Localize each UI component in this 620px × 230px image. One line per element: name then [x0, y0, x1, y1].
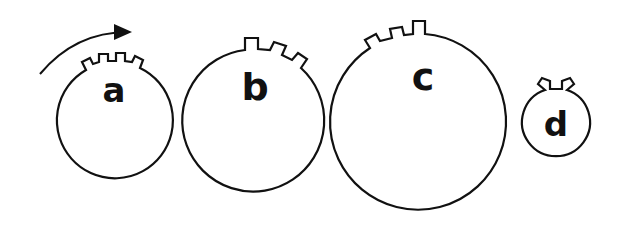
wheel-d: d — [522, 78, 590, 156]
wheel-b: b — [182, 38, 324, 192]
gear-wheels-diagram: a b c d — [0, 0, 620, 230]
wheel-a: a — [57, 53, 173, 178]
wheel-label-a: a — [103, 70, 126, 110]
wheel-label-b: b — [241, 65, 268, 109]
wheel-c: c — [330, 21, 506, 210]
wheel-label-c: c — [412, 55, 435, 99]
wheel-label-d: d — [544, 104, 568, 144]
